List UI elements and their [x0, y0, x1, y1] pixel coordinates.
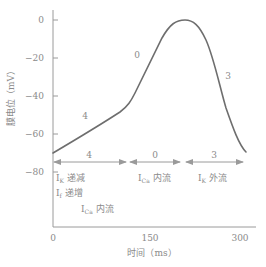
phase-4-label: 4 [82, 111, 88, 121]
phase-0-label: 0 [134, 50, 140, 60]
ica-inflow-label-phase0: ICa 内流 [138, 172, 171, 184]
action-potential-chart: 0 −20 −40 −60 −80 膜电位（mV） 0 150 300 时间（m… [0, 0, 266, 267]
y-tick-minus20: −20 [25, 53, 44, 63]
x-tick-150: 150 [141, 233, 158, 243]
arrow-3-label: 3 [211, 150, 217, 160]
y-tick-minus80: −80 [25, 167, 44, 177]
arrow-4-label: 4 [86, 150, 92, 160]
y-tick-minus40: −40 [25, 91, 44, 101]
y-tick-0: 0 [38, 15, 44, 25]
ik-outflow-label: IK 外流 [198, 172, 227, 184]
x-axis-title: 时间（ms） [127, 247, 176, 258]
action-potential-curve [53, 20, 246, 153]
y-ticks [53, 20, 58, 172]
arrow-0-label: 0 [152, 150, 158, 160]
x-tick-300: 300 [231, 233, 248, 243]
ik-decrease-label: IK 递减 [56, 172, 85, 184]
x-tick-0: 0 [50, 233, 56, 243]
y-tick-minus60: −60 [25, 129, 44, 139]
ica-inflow-label-phase4: ICa 内流 [81, 203, 114, 215]
y-axis-title: 膜电位（mV） [5, 66, 16, 126]
phase-3-label: 3 [225, 71, 231, 81]
if-increase-label: If 递增 [56, 187, 83, 199]
